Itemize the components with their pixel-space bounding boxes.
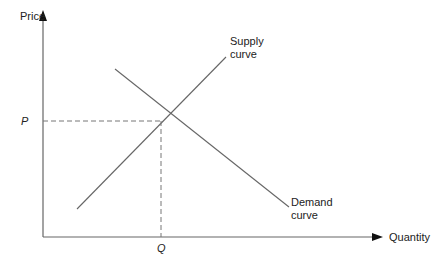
y-axis-label: Price — [20, 10, 45, 23]
demand-label-line2: curve — [291, 209, 333, 222]
price-label: P — [21, 115, 28, 128]
demand-label-line1: Demand — [291, 196, 333, 209]
supply-label: Supply curve — [230, 35, 264, 61]
demand-curve — [115, 69, 289, 207]
demand-label: Demand curve — [291, 196, 333, 222]
supply-label-line1: Supply — [230, 35, 264, 48]
supply-curve — [77, 57, 226, 209]
x-axis-label: Quantity — [389, 231, 430, 244]
x-axis-arrow-icon — [372, 233, 383, 241]
supply-demand-diagram — [0, 0, 441, 261]
quantity-label: Q — [157, 242, 166, 255]
supply-label-line2: curve — [230, 48, 264, 61]
